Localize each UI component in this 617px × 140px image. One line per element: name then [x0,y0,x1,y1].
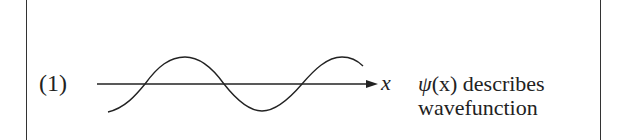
psi-argument: (x) [432,71,458,96]
x-axis-label: x [381,70,391,96]
psi-symbol: ψ [418,71,432,96]
description-line-2: wavefunction [418,96,545,120]
description-text-1: describes [457,71,544,96]
arrow-head-icon [366,80,378,88]
description-line-1: ψ(x) describes [418,72,545,96]
wavefunction-description: ψ(x) describes wavefunction [418,72,545,120]
